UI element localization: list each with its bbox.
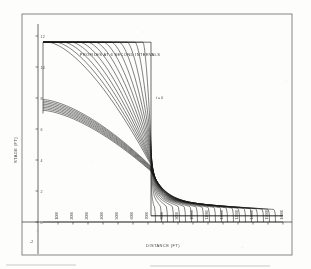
y-tick-label-negative: -2 — [30, 240, 33, 244]
x-axis-title: DISTANCE (FT) — [146, 243, 180, 248]
x-tick-label: 11000 — [205, 210, 209, 219]
y-tick-label: 12 — [41, 35, 45, 39]
y-tick-label: 6 — [41, 128, 43, 132]
y-tick-label: 4 — [41, 159, 43, 163]
annotation-t0: t = 0 — [156, 96, 163, 100]
profile-curve — [43, 42, 156, 222]
y-tick-label: 0 — [41, 221, 43, 225]
y-tick-label: 2 — [41, 190, 43, 194]
profile-curve — [43, 42, 168, 222]
y-axis-title: STAGE (FT) — [13, 137, 18, 163]
profile-curve — [43, 42, 210, 222]
x-tick-label: 5000 — [115, 212, 119, 220]
x-tick-label: 13000 — [235, 210, 239, 220]
x-tick-label: 1000 — [55, 212, 59, 220]
scanned-page: 121086420-210002000300040005000600070008… — [0, 0, 311, 269]
x-tick-label: 6000 — [130, 212, 134, 220]
x-tick-label: 16000 — [280, 210, 284, 220]
profile-curve — [43, 42, 204, 222]
y-tick-label: 8 — [41, 97, 43, 101]
profile-curve — [43, 107, 264, 222]
profile-curve — [43, 109, 270, 222]
x-tick-label: 7000 — [145, 212, 149, 220]
figure-plot: 121086420-210002000300040005000600070008… — [0, 0, 311, 269]
x-tick-label: 2000 — [70, 212, 74, 220]
x-tick-label: 10000 — [190, 210, 194, 220]
profile-curve — [43, 42, 216, 222]
x-tick-label: 3000 — [85, 212, 89, 220]
profile-curve — [43, 42, 198, 222]
profile-curve — [43, 42, 228, 222]
x-tick-label: 4000 — [100, 212, 104, 220]
plot-svg: 121086420-210002000300040005000600070008… — [0, 0, 311, 269]
